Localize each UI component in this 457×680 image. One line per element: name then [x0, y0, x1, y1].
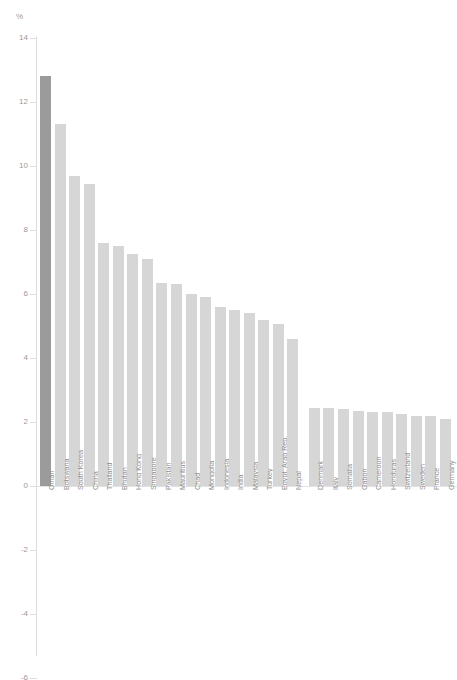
y-axis-tick: 10 — [0, 166, 37, 167]
y-axis-unit-label: % — [16, 12, 23, 21]
x-axis-category-label: Nepal — [295, 471, 302, 490]
y-axis-tick: 4 — [0, 358, 37, 359]
y-axis-tick-label: 4 — [2, 354, 28, 362]
y-axis-tick-label: -6 — [2, 674, 28, 680]
y-axis-tick-label: 6 — [2, 290, 28, 298]
y-axis-tick-label: -4 — [2, 610, 28, 618]
y-axis-tick: 12 — [0, 102, 37, 103]
y-axis-tick: 14 — [0, 38, 37, 39]
y-axis-tick: -4 — [0, 614, 37, 615]
bar[interactable] — [40, 76, 51, 486]
bar[interactable] — [142, 259, 153, 486]
y-axis-tick-label: 0 — [2, 482, 28, 490]
bar-chart: % 14121086420-2-4-6 OmanBotswanaSouth Ko… — [0, 0, 457, 680]
bar[interactable] — [200, 297, 211, 486]
y-axis-tick: 2 — [0, 422, 37, 423]
bar[interactable] — [84, 184, 95, 486]
bar[interactable] — [287, 339, 298, 486]
y-axis-tick: 0 — [0, 486, 37, 487]
bar[interactable] — [127, 254, 138, 486]
bar[interactable] — [186, 294, 197, 486]
y-axis-tick-label: 2 — [2, 418, 28, 426]
y-axis-tick: -2 — [0, 550, 37, 551]
bar[interactable] — [229, 310, 240, 486]
bar[interactable] — [55, 124, 66, 486]
bar[interactable] — [323, 408, 334, 486]
y-axis-tick: 8 — [0, 230, 37, 231]
y-axis-tick-label: -2 — [2, 546, 28, 554]
y-axis-tick-label: 14 — [2, 34, 28, 42]
y-axis-tick: -6 — [0, 678, 37, 679]
bar[interactable] — [98, 243, 109, 486]
y-axis-tick: 6 — [0, 294, 37, 295]
y-axis-tick-label: 8 — [2, 226, 28, 234]
bar[interactable] — [258, 320, 269, 486]
bar[interactable] — [156, 283, 167, 486]
bar[interactable] — [113, 246, 124, 486]
plot-area: OmanBotswanaSouth KoreaChinaThailandBhut… — [36, 0, 457, 680]
bar[interactable] — [69, 176, 80, 486]
x-axis-category-label: Germany — [448, 460, 455, 490]
y-axis-tick-label: 10 — [2, 162, 28, 170]
bar[interactable] — [244, 313, 255, 486]
y-axis-tick-label: 12 — [2, 98, 28, 106]
bar[interactable] — [171, 284, 182, 486]
